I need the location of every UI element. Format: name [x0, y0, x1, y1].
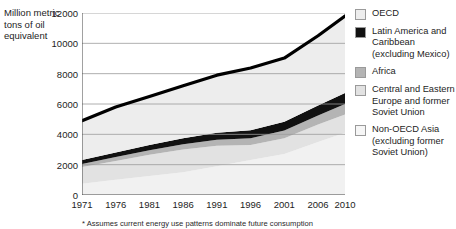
x-axis-tick-label: 2010: [325, 199, 365, 210]
legend-swatch-icon: [355, 67, 366, 78]
legend-item-label: Non-OECD Asia (excluding former Soviet U…: [372, 124, 455, 158]
legend-item: Central and Eastern Europe and former So…: [355, 84, 455, 118]
y-axis-tick-label: 6000: [32, 99, 78, 110]
plot-area: [82, 13, 345, 195]
chart-footnote: * Assumes current energy use patterns do…: [82, 219, 412, 228]
legend-swatch-icon: [355, 125, 366, 136]
legend-swatch-icon: [355, 9, 366, 20]
legend-item-label: Central and Eastern Europe and former So…: [372, 84, 455, 118]
legend-item-label: Latin America and Caribbean (excluding M…: [372, 26, 455, 60]
y-axis-tick-label: 10000: [32, 38, 78, 49]
chart-figure: Million metric tons of oil equivalent 02…: [0, 0, 456, 229]
legend-swatch-icon: [355, 85, 366, 96]
y-axis-tick-label: 12000: [32, 8, 78, 19]
legend-item: OECD: [355, 8, 455, 20]
chart-legend: OECDLatin America and Caribbean (excludi…: [355, 8, 455, 165]
legend-item-label: OECD: [372, 8, 399, 19]
stacked-area-plot: [82, 13, 345, 195]
y-axis-tick-label: 4000: [32, 129, 78, 140]
y-axis-tick-label: 8000: [32, 69, 78, 80]
y-axis-tick-label: 2000: [32, 160, 78, 171]
legend-item: Latin America and Caribbean (excluding M…: [355, 26, 455, 60]
legend-item: Non-OECD Asia (excluding former Soviet U…: [355, 124, 455, 158]
legend-item-label: Africa: [372, 66, 396, 77]
legend-item: Africa: [355, 66, 455, 78]
legend-swatch-icon: [355, 27, 366, 38]
y-axis-tick-labels: 020004000600080001000012000: [30, 0, 78, 229]
